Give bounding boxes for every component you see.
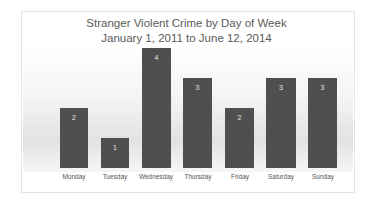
bar-wednesday: 4 xyxy=(142,48,171,168)
chart-subtitle: January 1, 2011 to June 12, 2014 xyxy=(0,31,373,46)
data-label: 4 xyxy=(142,54,171,61)
x-label-sunday: Sunday xyxy=(298,173,348,180)
data-label: 3 xyxy=(183,84,212,91)
data-label: 2 xyxy=(60,114,88,121)
bar-monday: 2 xyxy=(60,108,88,168)
data-label: 3 xyxy=(308,84,337,91)
chart-title: Stranger Violent Crime by Day of Week xyxy=(0,16,373,31)
bar-tuesday: 1 xyxy=(101,138,129,168)
bar-thursday: 3 xyxy=(183,78,212,168)
data-label: 1 xyxy=(101,144,129,151)
bar-saturday: 3 xyxy=(266,78,296,168)
data-label: 3 xyxy=(266,84,296,91)
bar-sunday: 3 xyxy=(308,78,337,168)
bar-friday: 2 xyxy=(225,108,254,168)
data-label: 2 xyxy=(225,114,254,121)
